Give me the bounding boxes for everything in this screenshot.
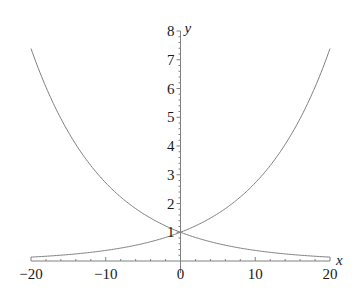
x-tick-label: −20 bbox=[19, 266, 42, 282]
y-tick-label: 4 bbox=[167, 138, 175, 154]
exponential-plot: −20−100102012345678xy bbox=[0, 0, 361, 298]
x-tick-label: 0 bbox=[177, 266, 185, 282]
tick-labels: −20−100102012345678xy bbox=[19, 20, 343, 282]
x-tick-label: −10 bbox=[94, 266, 117, 282]
axes bbox=[31, 31, 330, 273]
y-tick-label: 3 bbox=[167, 167, 175, 183]
y-tick-label: 1 bbox=[167, 224, 175, 240]
y-tick-label: 2 bbox=[167, 196, 175, 212]
y-axis-title: y bbox=[183, 20, 192, 36]
y-tick-label: 6 bbox=[167, 81, 175, 97]
y-tick-label: 5 bbox=[167, 109, 175, 125]
x-axis-title: x bbox=[335, 252, 343, 268]
y-tick-label: 8 bbox=[167, 23, 175, 39]
x-tick-label: 20 bbox=[323, 266, 338, 282]
y-tick-label: 7 bbox=[167, 52, 175, 68]
x-tick-label: 10 bbox=[248, 266, 263, 282]
